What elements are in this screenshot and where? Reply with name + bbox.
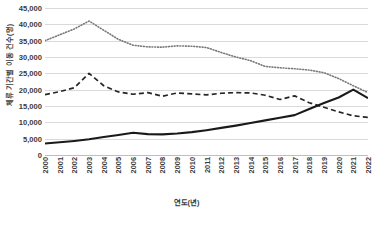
x-axis-tick-label: 2022 bbox=[351, 157, 373, 191]
x-axis-tick-labels: 2000200120022003200420052006200720082009… bbox=[45, 157, 368, 193]
y-axis-tick-label: 30,000 bbox=[6, 53, 42, 62]
plot-area bbox=[45, 8, 368, 155]
y-axis-tick-label: 35,000 bbox=[6, 36, 42, 45]
series-line-solid-series bbox=[45, 90, 368, 144]
gridline bbox=[45, 155, 368, 156]
y-axis-tick-label: 25,000 bbox=[6, 69, 42, 78]
y-axis-tick-labels: 45,00040,00035,00030,00025,00020,00015,0… bbox=[6, 0, 42, 170]
y-axis-tick-label: 5,000 bbox=[6, 134, 42, 143]
x-axis-title: 연도(년) bbox=[0, 196, 373, 207]
y-axis-tick-label: 20,000 bbox=[6, 85, 42, 94]
series-container bbox=[45, 8, 368, 155]
y-axis-tick-label: 15,000 bbox=[6, 102, 42, 111]
line-chart: 체류 기간별 이동 건수(명) 45,00040,00035,00030,000… bbox=[0, 0, 373, 225]
y-axis-tick-label: 10,000 bbox=[6, 118, 42, 127]
series-line-dotted-series bbox=[45, 21, 368, 93]
y-axis-tick-label: 45,000 bbox=[6, 4, 42, 13]
series-line-dashed-series bbox=[45, 73, 368, 117]
y-axis-tick-label: 40,000 bbox=[6, 20, 42, 29]
